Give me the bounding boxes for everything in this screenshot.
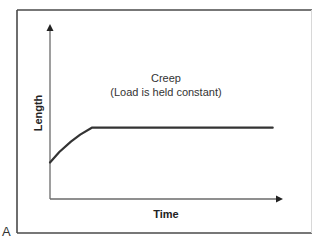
panel-label: A xyxy=(2,224,11,239)
chart-subtitle: (Load is held constant) xyxy=(110,86,221,98)
x-axis-label: Time xyxy=(153,208,178,220)
chart-title: Creep xyxy=(151,72,181,84)
y-axis-label: Length xyxy=(32,94,44,131)
creep-chart: Creep (Load is held constant) Time Lengt… xyxy=(0,0,318,245)
